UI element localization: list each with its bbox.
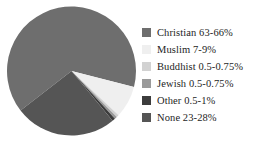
legend-item-other[interactable]: Other 0.5-1% [142,92,256,109]
legend-item-none[interactable]: None 23-28% [142,109,256,126]
pie-chart-graphic [7,6,136,136]
pie-svg [7,6,136,136]
legend-label-muslim: Muslim 7-9% [157,44,216,55]
legend-label-none: None 23-28% [157,112,217,123]
legend-item-jewish[interactable]: Jewish 0.5-0.75% [142,75,256,92]
legend-swatch-none [142,113,151,122]
pie-slice-group [7,7,136,136]
legend-swatch-other [142,96,151,105]
legend-item-muslim[interactable]: Muslim 7-9% [142,41,256,58]
pie-chart-figure: Christian 63-66% Muslim 7-9% Buddhist 0.… [0,0,256,143]
legend-label-other: Other 0.5-1% [157,95,215,106]
legend-swatch-muslim [142,45,151,54]
legend-label-buddhist: Buddhist 0.5-0.75% [157,61,243,72]
legend-label-jewish: Jewish 0.5-0.75% [157,78,234,89]
legend-swatch-buddhist [142,62,151,71]
legend-label-christian: Christian 63-66% [157,27,233,38]
legend-swatch-christian [142,28,151,37]
legend-swatch-jewish [142,79,151,88]
chart-legend: Christian 63-66% Muslim 7-9% Buddhist 0.… [142,24,256,126]
legend-item-christian[interactable]: Christian 63-66% [142,24,256,41]
legend-item-buddhist[interactable]: Buddhist 0.5-0.75% [142,58,256,75]
